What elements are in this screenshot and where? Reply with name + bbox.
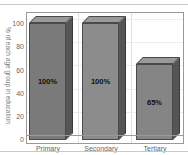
y-axis-label: % of each age group in education: [5, 16, 12, 136]
y-tick-0: 0: [12, 136, 24, 143]
bar-tertiary: 65%: [136, 0, 180, 140]
gridline-vertical: [78, 13, 79, 143]
bottom-rule: [0, 151, 188, 152]
y-tick-80: 80: [12, 43, 24, 50]
y-tick-20: 20: [12, 113, 24, 120]
gridline-vertical: [131, 13, 132, 143]
bar-value-label: 65%: [136, 98, 173, 107]
bar-value-label: 100%: [29, 77, 66, 86]
y-tick-100: 100: [12, 20, 24, 27]
bar-primary: 100%: [29, 0, 73, 140]
y-tick-40: 40: [12, 90, 24, 97]
y-tick-60: 60: [12, 67, 24, 74]
bar-secondary: 100%: [82, 0, 126, 140]
chart-floor: [27, 135, 183, 136]
bar-value-label: 100%: [82, 77, 119, 86]
